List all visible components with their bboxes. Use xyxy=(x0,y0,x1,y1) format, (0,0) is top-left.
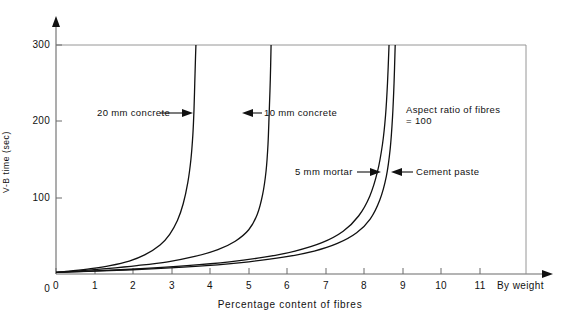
x-axis-title: Percentage content of fibres xyxy=(218,299,363,312)
chart-container: 300 200 100 0 0 1 2 3 4 5 6 7 8 9 10 11 … xyxy=(0,0,565,323)
annotation-5mm-mortar: 5 mm mortar xyxy=(295,166,353,178)
annotation-aspect-ratio-line2: = 100 xyxy=(406,115,432,127)
annotation-10mm-concrete: 10 mm concrete xyxy=(264,107,337,119)
y-axis-arrow-icon xyxy=(52,16,60,27)
curve-cement-paste xyxy=(56,45,395,272)
x-tick-label-2: 2 xyxy=(130,280,136,293)
y-axis xyxy=(52,16,60,274)
annotation-leaders xyxy=(160,109,413,176)
data-curves xyxy=(56,45,395,272)
arrow-left-10mm-icon xyxy=(242,109,253,117)
x-tick-label-3: 3 xyxy=(169,280,175,293)
annotation-20mm-concrete: 20 mm concrete xyxy=(97,107,170,119)
arrow-left-cement-icon xyxy=(391,168,402,176)
x-tick-label-0: 0 xyxy=(53,280,59,293)
curve-10mm-concrete xyxy=(56,45,271,272)
x-tick-label-10: 10 xyxy=(435,280,447,293)
x-axis-ticks xyxy=(56,268,480,274)
x-tick-label-6: 6 xyxy=(284,280,290,293)
chart-plot-area xyxy=(0,0,565,323)
y-tick-label-0: 0 xyxy=(14,283,50,296)
x-axis-end-label: By weight xyxy=(497,280,544,293)
y-tick-label-100: 100 xyxy=(14,192,50,205)
x-tick-label-9: 9 xyxy=(400,280,406,293)
arrow-right-20mm-icon xyxy=(182,109,193,117)
y-axis-title: V-B time (sec) xyxy=(1,131,12,193)
x-tick-label-1: 1 xyxy=(92,280,98,293)
annotation-cement-paste: Cement paste xyxy=(416,166,479,178)
curve-20mm-concrete xyxy=(56,45,196,272)
x-axis-arrow-icon xyxy=(542,270,553,278)
x-axis xyxy=(56,270,553,278)
y-tick-label-300: 300 xyxy=(14,39,50,52)
curve-5mm-mortar xyxy=(56,45,389,272)
x-tick-label-5: 5 xyxy=(246,280,252,293)
y-axis-ticks xyxy=(56,45,62,198)
plot-border xyxy=(56,45,526,274)
arrow-right-5mm-icon xyxy=(370,168,381,176)
y-tick-label-200: 200 xyxy=(14,115,50,128)
x-tick-label-8: 8 xyxy=(361,280,367,293)
x-tick-label-4: 4 xyxy=(207,280,213,293)
x-tick-label-11: 11 xyxy=(475,280,486,293)
x-tick-label-7: 7 xyxy=(323,280,329,293)
